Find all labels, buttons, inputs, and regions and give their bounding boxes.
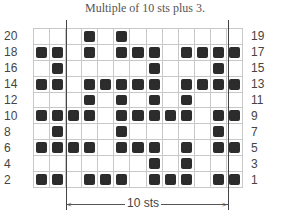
filled-stitch-cell xyxy=(179,45,195,61)
filled-stitch-cell xyxy=(82,45,98,61)
chart-title: Multiple of 10 sts plus 3. xyxy=(0,0,284,16)
filled-stitch-cell xyxy=(227,140,243,156)
empty-stitch-cell xyxy=(163,93,179,109)
filled-stitch-cell xyxy=(50,108,66,124)
empty-stitch-cell xyxy=(227,61,243,77)
empty-stitch-cell xyxy=(98,61,114,77)
empty-stitch-cell xyxy=(130,124,146,140)
row-label: 14 xyxy=(4,76,28,92)
filled-stitch-cell xyxy=(130,45,146,61)
row-label: 18 xyxy=(4,44,28,60)
filled-stitch-cell xyxy=(179,172,195,188)
row-label: 7 xyxy=(251,124,275,140)
row-label: 9 xyxy=(251,108,275,124)
empty-stitch-cell xyxy=(227,93,243,109)
row-label: 19 xyxy=(251,28,275,44)
empty-stitch-cell xyxy=(163,77,179,93)
empty-stitch-cell xyxy=(179,124,195,140)
filled-stitch-cell xyxy=(98,172,114,188)
filled-stitch-cell xyxy=(130,108,146,124)
filled-stitch-cell xyxy=(50,124,66,140)
row-label: 13 xyxy=(251,76,275,92)
filled-stitch-cell xyxy=(82,77,98,93)
filled-stitch-cell xyxy=(50,172,66,188)
row-label: 1 xyxy=(251,172,275,188)
empty-stitch-cell xyxy=(179,61,195,77)
empty-stitch-cell xyxy=(98,156,114,172)
empty-stitch-cell xyxy=(195,140,211,156)
filled-stitch-cell xyxy=(179,156,195,172)
filled-stitch-cell xyxy=(50,140,66,156)
empty-stitch-cell xyxy=(147,29,163,45)
empty-stitch-cell xyxy=(163,140,179,156)
row-label: 5 xyxy=(251,140,275,156)
empty-stitch-cell xyxy=(98,124,114,140)
filled-stitch-cell xyxy=(179,108,195,124)
filled-stitch-cell xyxy=(163,108,179,124)
row-label: 16 xyxy=(4,60,28,76)
empty-stitch-cell xyxy=(114,61,130,77)
filled-stitch-cell xyxy=(98,77,114,93)
filled-stitch-cell xyxy=(34,140,50,156)
filled-stitch-cell xyxy=(130,140,146,156)
arrow-right-icon: > xyxy=(222,201,227,209)
empty-stitch-cell xyxy=(50,93,66,109)
row-label: 3 xyxy=(251,156,275,172)
filled-stitch-cell xyxy=(147,93,163,109)
filled-stitch-cell xyxy=(195,77,211,93)
empty-stitch-cell xyxy=(34,29,50,45)
empty-stitch-cell xyxy=(195,172,211,188)
filled-stitch-cell xyxy=(211,140,227,156)
empty-stitch-cell xyxy=(147,124,163,140)
filled-stitch-cell xyxy=(147,45,163,61)
empty-stitch-cell xyxy=(114,156,130,172)
filled-stitch-cell xyxy=(114,29,130,45)
filled-stitch-cell xyxy=(114,45,130,61)
filled-stitch-cell xyxy=(147,61,163,77)
filled-stitch-cell xyxy=(195,45,211,61)
filled-stitch-cell xyxy=(114,77,130,93)
filled-stitch-cell xyxy=(114,140,130,156)
row-label: 20 xyxy=(4,28,28,44)
filled-stitch-cell xyxy=(211,77,227,93)
filled-stitch-cell xyxy=(82,108,98,124)
filled-stitch-cell xyxy=(147,156,163,172)
empty-stitch-cell xyxy=(195,108,211,124)
empty-stitch-cell xyxy=(130,156,146,172)
empty-stitch-cell xyxy=(163,45,179,61)
empty-stitch-cell xyxy=(66,156,82,172)
empty-stitch-cell xyxy=(34,156,50,172)
empty-stitch-cell xyxy=(98,93,114,109)
filled-stitch-cell xyxy=(147,108,163,124)
filled-stitch-cell xyxy=(34,172,50,188)
empty-stitch-cell xyxy=(66,124,82,140)
filled-stitch-cell xyxy=(211,172,227,188)
filled-stitch-cell xyxy=(50,45,66,61)
row-label: 12 xyxy=(4,92,28,108)
empty-stitch-cell xyxy=(163,156,179,172)
empty-stitch-cell xyxy=(34,61,50,77)
row-label: 10 xyxy=(4,108,28,124)
filled-stitch-cell xyxy=(82,29,98,45)
row-label: 2 xyxy=(4,172,28,188)
empty-stitch-cell xyxy=(163,61,179,77)
empty-stitch-cell xyxy=(179,29,195,45)
empty-stitch-cell xyxy=(195,93,211,109)
filled-stitch-cell xyxy=(34,45,50,61)
filled-stitch-cell xyxy=(211,45,227,61)
filled-stitch-cell xyxy=(66,108,82,124)
empty-stitch-cell xyxy=(227,124,243,140)
filled-stitch-cell xyxy=(34,77,50,93)
filled-stitch-cell xyxy=(227,108,243,124)
empty-stitch-cell xyxy=(163,29,179,45)
empty-stitch-cell xyxy=(195,156,211,172)
empty-stitch-cell xyxy=(98,29,114,45)
repeat-line-right xyxy=(228,20,229,210)
empty-stitch-cell xyxy=(82,124,98,140)
empty-stitch-cell xyxy=(98,45,114,61)
filled-stitch-cell xyxy=(147,77,163,93)
filled-stitch-cell xyxy=(114,172,130,188)
empty-stitch-cell xyxy=(130,93,146,109)
filled-stitch-cell xyxy=(66,140,82,156)
row-label: 15 xyxy=(251,60,275,76)
